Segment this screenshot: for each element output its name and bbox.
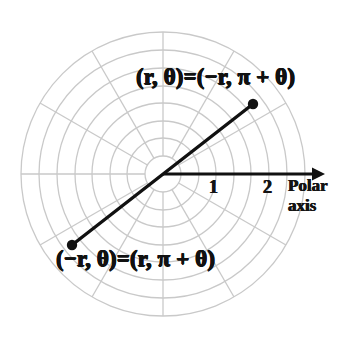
polar-coordinate-figure: (r, θ)=(−r, π + θ) (−r, θ)=(r, π + θ) 1 … [0, 0, 346, 351]
axis-tick-label-2: 2 [263, 178, 272, 196]
grid-spoke-300deg [172, 190, 234, 297]
polar-axis-caption-line2: axis [288, 196, 328, 216]
grid-spoke-150deg [40, 103, 147, 165]
grid-spoke-210deg [40, 183, 147, 245]
polar-axis-caption: Polar axis [288, 176, 328, 215]
lower-point-equation-label: (−r, θ)=(r, π + θ) [56, 247, 215, 270]
upper-point-equation-label: (r, θ)=(−r, π + θ) [136, 65, 295, 88]
grid-spoke-30deg [179, 103, 286, 165]
axis-tick-label-1: 1 [209, 178, 218, 196]
polar-axis-caption-line1: Polar [288, 176, 328, 196]
upper-point-marker [248, 99, 258, 109]
